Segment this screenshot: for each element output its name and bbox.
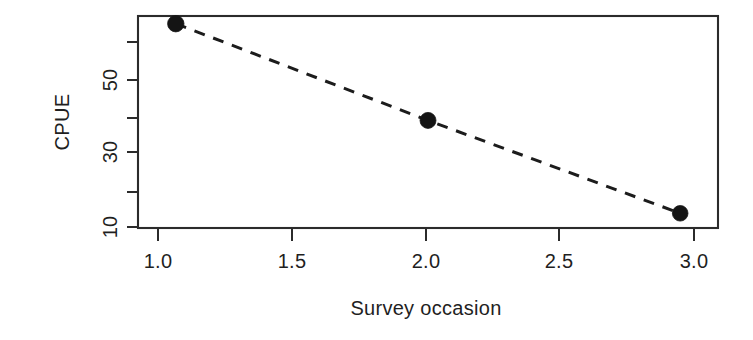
- y-tick-label-10: 10: [99, 216, 121, 239]
- x-axis-title: Survey occasion: [350, 297, 501, 319]
- x-tick-label-3-0: 3.0: [680, 250, 708, 272]
- x-tick-label-2-0: 2.0: [412, 250, 440, 272]
- x-axis-tick-labels: 1.0 1.5 2.0 2.5 3.0: [144, 250, 708, 272]
- y-axis-tick-labels: 50 30 10: [99, 69, 121, 239]
- y-axis-ticks: [127, 42, 138, 227]
- data-point-occasion-3: [672, 206, 688, 222]
- figure-root: 50 30 10 CPUE 1.0 1.5 2.0 2.5 3.0 Survey…: [0, 0, 753, 340]
- series-points-cpue: [168, 16, 688, 222]
- x-axis-ticks: [158, 228, 694, 241]
- x-tick-label-1-0: 1.0: [144, 250, 172, 272]
- y-axis-title: CPUE: [51, 94, 73, 151]
- data-point-occasion-1: [168, 16, 184, 32]
- x-tick-label-2-5: 2.5: [545, 250, 573, 272]
- data-point-occasion-2: [420, 112, 436, 128]
- y-tick-label-30: 30: [99, 141, 121, 164]
- y-tick-label-50: 50: [99, 69, 121, 92]
- x-tick-label-1-5: 1.5: [278, 250, 306, 272]
- cpue-line-chart: 50 30 10 CPUE 1.0 1.5 2.0 2.5 3.0 Survey…: [0, 0, 753, 340]
